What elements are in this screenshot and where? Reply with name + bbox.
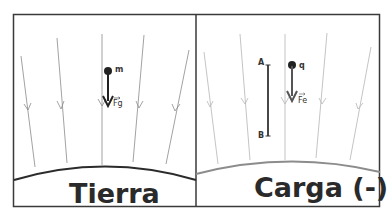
charge-label: q: [299, 61, 305, 70]
electric-force-label: Fe: [298, 96, 307, 105]
mass-label: m: [115, 65, 123, 74]
earth-title: Tierra: [69, 178, 160, 209]
point-b-label: B: [258, 131, 264, 140]
charge-title: Carga (-): [254, 172, 388, 203]
gravity-force-label: Fg: [113, 99, 123, 108]
point-a-label: A: [258, 58, 264, 67]
